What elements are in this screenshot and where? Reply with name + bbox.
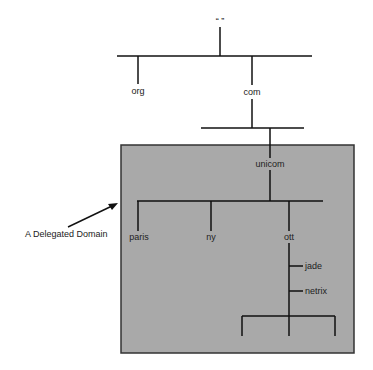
paris-label: paris [129, 232, 149, 242]
arrow-line [68, 206, 112, 227]
netrix-label: netrix [305, 286, 328, 296]
ny-label: ny [206, 232, 216, 242]
delegated-domain-label: A Delegated Domain [25, 229, 108, 239]
com-label: com [243, 87, 260, 97]
root-label: “ ” [216, 16, 225, 26]
jade-label: jade [304, 261, 322, 271]
unicom-label: unicom [255, 159, 284, 169]
delegated-domain-box [121, 145, 354, 353]
org-label: org [131, 86, 144, 96]
ott-label: ott [284, 232, 295, 242]
dns-tree-diagram: “ ” org com unicom paris ny ott jade net… [0, 0, 373, 370]
